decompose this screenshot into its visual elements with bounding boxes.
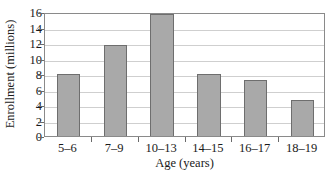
gridline bbox=[45, 76, 324, 77]
bar bbox=[291, 100, 314, 136]
gridline bbox=[45, 61, 324, 62]
bar bbox=[57, 74, 80, 136]
y-tick-mark bbox=[38, 106, 44, 107]
gridline bbox=[45, 123, 324, 124]
x-tick-label: 16–17 bbox=[231, 140, 278, 156]
bar bbox=[244, 80, 267, 136]
x-tick-label: 5–6 bbox=[44, 140, 91, 156]
bar bbox=[197, 74, 220, 136]
x-axis-tick-labels: 5–67–910–1314–1516–1718–19 bbox=[44, 140, 325, 156]
y-tick-mark bbox=[38, 44, 44, 45]
plot-area bbox=[44, 13, 325, 137]
gridline bbox=[45, 107, 324, 108]
bar bbox=[104, 45, 127, 136]
gridline bbox=[45, 45, 324, 46]
x-tick-label: 10–13 bbox=[138, 140, 185, 156]
y-tick-mark bbox=[38, 60, 44, 61]
gridline bbox=[45, 92, 324, 93]
y-tick-mark bbox=[38, 13, 44, 14]
y-tick-mark bbox=[38, 91, 44, 92]
y-axis-label: Enrollment (millions) bbox=[2, 6, 18, 142]
bar-chart-figure: Enrollment (millions) 0246810121416 5–67… bbox=[0, 0, 334, 174]
x-tick-label: 18–19 bbox=[278, 140, 325, 156]
bar bbox=[150, 14, 173, 136]
y-tick-mark bbox=[38, 137, 44, 138]
x-axis-label: Age (years) bbox=[44, 155, 325, 171]
y-tick-mark bbox=[38, 75, 44, 76]
gridline bbox=[45, 30, 324, 31]
y-tick-mark bbox=[38, 122, 44, 123]
x-tick-label: 14–15 bbox=[185, 140, 232, 156]
x-tick-label: 7–9 bbox=[91, 140, 138, 156]
y-tick-mark bbox=[38, 29, 44, 30]
